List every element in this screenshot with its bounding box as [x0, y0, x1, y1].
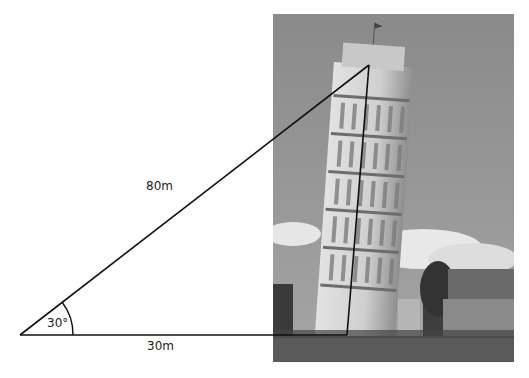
hypotenuse-label: 80m [146, 179, 173, 193]
base-label: 30m [147, 339, 174, 353]
triangle-diagram [0, 0, 529, 378]
tower-height-line [347, 65, 369, 335]
hypotenuse-line [20, 65, 369, 335]
angle-label: 30° [47, 316, 68, 330]
